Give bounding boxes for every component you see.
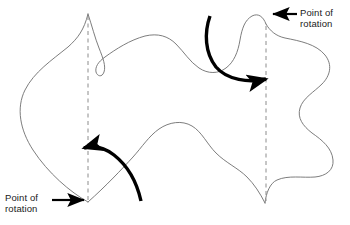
outline-right-lobe xyxy=(265,24,333,203)
label-point-of-rotation-bottom-left: Point of rotation xyxy=(5,192,38,214)
label-top-right-line2: rotation xyxy=(300,18,333,29)
label-top-right-line1: Point of xyxy=(300,7,333,18)
irregular-shape-outline xyxy=(20,14,333,203)
outline-top-middle xyxy=(88,14,266,76)
label-point-of-rotation-top-right: Point of rotation xyxy=(300,7,333,29)
outline-bottom-middle xyxy=(88,122,265,203)
rotation-diagram: Point of rotation Point of rotation xyxy=(0,0,350,225)
label-bottom-left-line2: rotation xyxy=(5,203,38,214)
outline-left-lobe xyxy=(20,14,88,202)
label-bottom-left-line1: Point of xyxy=(5,192,38,203)
diagram-canvas xyxy=(0,0,350,225)
rotation-arrow-right xyxy=(206,16,266,81)
rotation-arrow-left xyxy=(84,147,141,201)
